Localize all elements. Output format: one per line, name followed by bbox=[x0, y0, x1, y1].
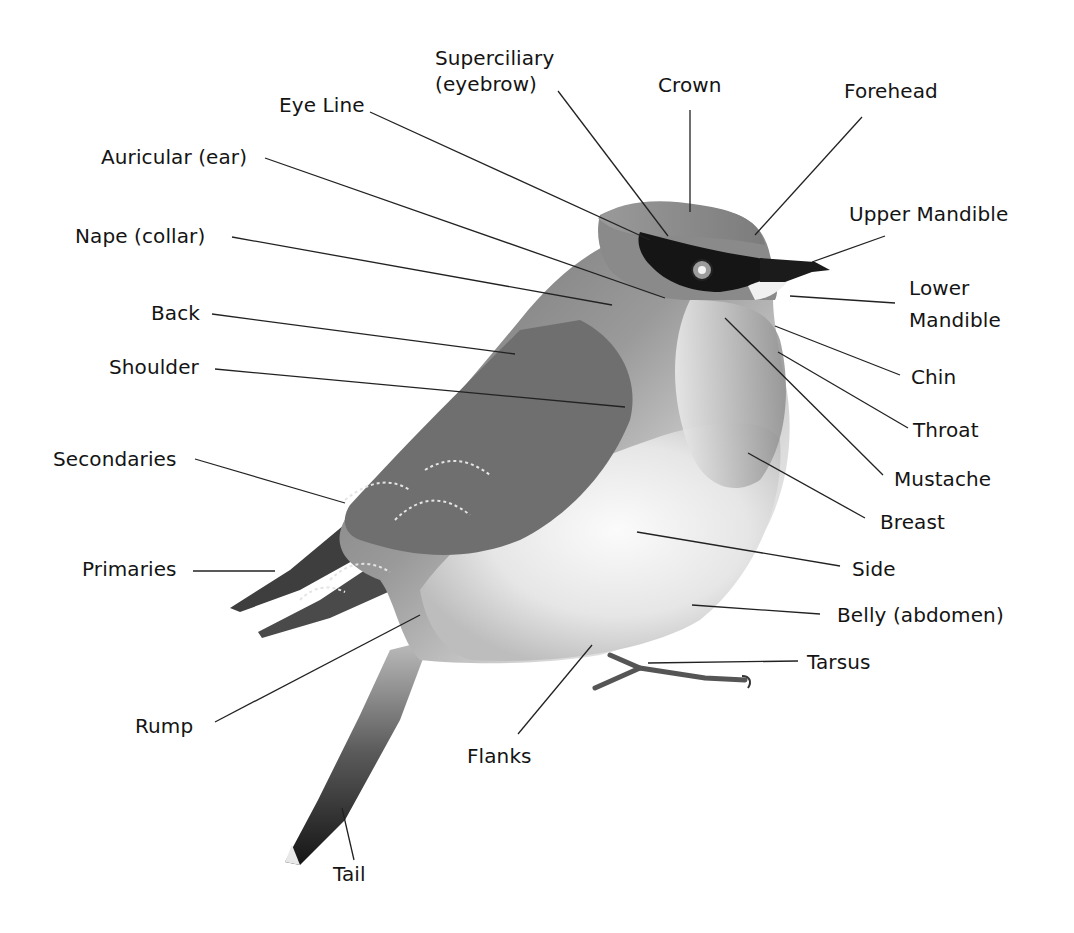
label-auricular: Auricular (ear) bbox=[101, 145, 247, 169]
label-primaries: Primaries bbox=[82, 557, 177, 581]
label-secondaries: Secondaries bbox=[53, 447, 176, 471]
label-superciliary: Superciliary (eyebrow) bbox=[435, 46, 554, 96]
label-mustache: Mustache bbox=[894, 467, 991, 491]
label-eye-line: Eye Line bbox=[279, 93, 365, 117]
label-lower-mandible: Lower Mandible bbox=[909, 276, 1001, 332]
label-side: Side bbox=[852, 557, 896, 581]
label-throat: Throat bbox=[913, 418, 979, 442]
label-lower-mandible-line1: Lower bbox=[909, 276, 1001, 300]
label-lower-mandible-line2: Mandible bbox=[909, 308, 1001, 332]
label-nape: Nape (collar) bbox=[75, 224, 205, 248]
label-belly: Belly (abdomen) bbox=[837, 603, 1004, 627]
bird-anatomy-diagram: Superciliary (eyebrow) Crown Forehead Ey… bbox=[0, 0, 1074, 933]
label-tarsus: Tarsus bbox=[807, 650, 871, 674]
label-superciliary-line2: (eyebrow) bbox=[435, 72, 554, 96]
label-shoulder: Shoulder bbox=[109, 355, 199, 379]
label-flanks: Flanks bbox=[467, 744, 532, 768]
label-upper-mandible: Upper Mandible bbox=[849, 202, 1008, 226]
label-tail: Tail bbox=[333, 862, 366, 886]
label-forehead: Forehead bbox=[844, 79, 938, 103]
label-crown: Crown bbox=[658, 73, 722, 97]
legs-shape bbox=[595, 655, 745, 688]
label-back: Back bbox=[151, 301, 200, 325]
label-superciliary-line1: Superciliary bbox=[435, 46, 554, 70]
label-rump: Rump bbox=[135, 714, 193, 738]
beak-shape bbox=[760, 258, 830, 282]
label-chin: Chin bbox=[911, 365, 956, 389]
label-breast: Breast bbox=[880, 510, 945, 534]
